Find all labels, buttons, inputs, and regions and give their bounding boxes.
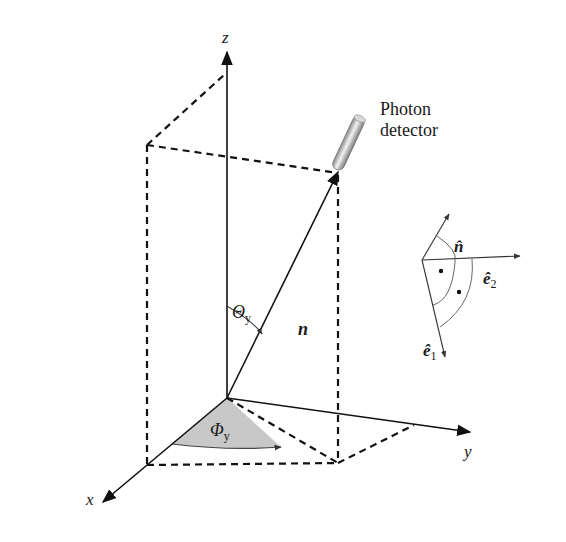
n-vector-label: n <box>298 319 308 339</box>
x-axis <box>103 398 227 502</box>
unit-vector-triad <box>422 214 520 357</box>
e2-hat-label: ê2 <box>483 269 497 291</box>
photon-detector-icon <box>331 113 367 172</box>
detector-label-line1: Photon <box>380 99 431 119</box>
photon-detector-geometry-diagram: z x y Photon detector Θy Φy n n̂ ê2 ê1 <box>0 0 566 542</box>
n-vector-arrow <box>227 172 338 398</box>
theta-label: Θy <box>232 302 251 325</box>
n-hat-label: n̂ <box>454 237 463 256</box>
y-axis <box>227 398 470 432</box>
detector-label-line2: detector <box>380 120 438 140</box>
y-axis-label: y <box>462 442 472 461</box>
e1-hat-label: ê1 <box>423 341 437 363</box>
x-axis-label: x <box>85 490 94 509</box>
z-axis-label: z <box>221 28 229 47</box>
dashed-projection-box <box>147 75 414 465</box>
